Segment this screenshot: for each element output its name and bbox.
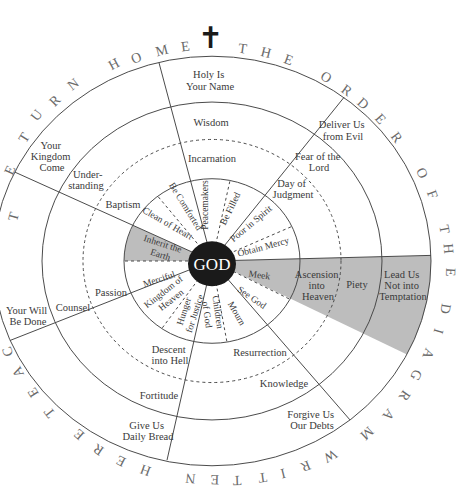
svg-text:R: R <box>388 129 406 146</box>
god-label: GOD <box>194 255 231 274</box>
gift-fear: Fear of the Lord <box>295 151 343 173</box>
svg-text:E: E <box>180 39 191 55</box>
svg-text:E: E <box>71 426 87 443</box>
petition-holy: Holy Is Your Name <box>186 69 235 92</box>
svg-text:N: N <box>65 75 82 93</box>
svg-text:H: H <box>106 55 122 73</box>
svg-text:M: M <box>357 424 377 444</box>
gift-knowledge: Knowledge <box>260 378 309 389</box>
svg-text:F: F <box>424 188 441 201</box>
svg-text:E: E <box>372 111 389 127</box>
svg-text:D: D <box>354 95 372 113</box>
svg-text:R: R <box>338 82 355 100</box>
svg-text:O: O <box>129 49 144 67</box>
svg-text:T: T <box>16 130 33 146</box>
mystery-incarnation: Incarnation <box>188 153 237 164</box>
cross-icon: ✝ <box>198 21 223 54</box>
svg-text:T: T <box>41 404 58 420</box>
petition-forgive: Forgive Us Our Debts <box>287 409 336 431</box>
svg-text:U: U <box>27 107 45 124</box>
svg-text:T: T <box>5 210 22 223</box>
svg-text:T: T <box>237 41 248 57</box>
gift-wisdom: Wisdom <box>193 117 228 128</box>
svg-text:D: D <box>437 302 454 315</box>
petition-lead: Lead Us Not into Temptation <box>379 269 427 302</box>
beatitude-be-filled: Be Filled <box>218 191 242 227</box>
petition-will: Your Will Be Done <box>6 305 50 327</box>
petition-deliver: Deliver Us from Evil <box>319 119 367 142</box>
svg-text:A: A <box>419 346 437 362</box>
svg-text:O: O <box>413 165 431 181</box>
svg-text:H: H <box>441 243 457 254</box>
svg-text:E: E <box>443 268 458 277</box>
petition-kingdom: Your Kingdom Come <box>31 140 73 173</box>
svg-text:E: E <box>210 472 219 487</box>
svg-text:W: W <box>320 446 340 466</box>
svg-text:C: C <box>0 345 16 359</box>
svg-text:R: R <box>396 387 414 404</box>
mystery-judgment: Day of Judgment <box>273 178 314 200</box>
svg-text:R: R <box>298 457 313 475</box>
svg-text:M: M <box>154 42 170 60</box>
svg-text:E: E <box>282 51 295 68</box>
svg-text:T: T <box>232 473 242 488</box>
mystery-passion: Passion <box>95 287 128 298</box>
beatitude-mourn: Mourn <box>226 300 248 328</box>
gift-piety: Piety <box>346 279 368 290</box>
svg-text:E: E <box>114 452 128 469</box>
svg-text:H: H <box>138 461 153 479</box>
svg-text:A: A <box>379 406 398 424</box>
svg-text:R: R <box>90 441 107 459</box>
gift-fortitude: Fortitude <box>140 390 179 401</box>
svg-text:E: E <box>1 163 18 177</box>
mystery-baptism: Baptism <box>105 199 140 210</box>
mystery-resurrection: Resurrection <box>233 347 287 358</box>
svg-text:T: T <box>436 224 452 235</box>
svg-text:H: H <box>259 44 272 61</box>
mystery-descent: Descent into Hell <box>151 344 188 366</box>
petition-bread: Give Us Daily Bread <box>122 420 174 442</box>
lords-prayer-diagram: GOD ✝ T E T U R N H O M E T H E O R D E … <box>0 0 465 500</box>
svg-text:I: I <box>430 327 446 336</box>
gift-counsel: Counsel <box>56 302 91 313</box>
gift-understanding: Under- standing <box>68 169 105 191</box>
svg-text:R: R <box>46 92 64 110</box>
svg-text:N: N <box>185 470 197 486</box>
svg-text:T: T <box>257 469 268 485</box>
svg-text:I: I <box>279 466 287 482</box>
svg-text:G: G <box>407 367 425 383</box>
